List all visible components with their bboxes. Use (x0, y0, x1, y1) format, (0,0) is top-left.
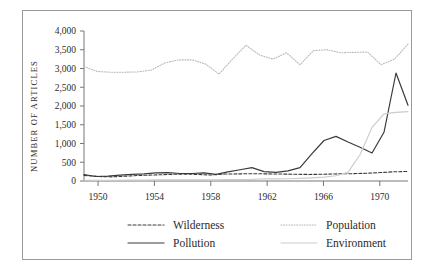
legend-label-population: Population (326, 219, 376, 232)
y-tick-label: 4,000 (55, 26, 77, 36)
line-chart: NUMBER OF ARTICLES 05001,0001,5002,0002,… (23, 11, 413, 261)
y-tick-label: 3,500 (55, 45, 77, 55)
series-line-environment (84, 112, 408, 181)
y-tick-label: 3,000 (55, 64, 77, 74)
x-tick-label: 1958 (201, 192, 220, 202)
y-tick-label: 2,500 (55, 83, 77, 93)
chart-figure-frame: NUMBER OF ARTICLES 05001,0001,5002,0002,… (22, 10, 412, 260)
legend-label-wilderness: Wilderness (173, 219, 225, 231)
x-tick-label: 1954 (145, 192, 164, 202)
y-tick-label: 1,000 (55, 139, 77, 149)
x-tick-label: 1950 (89, 192, 108, 202)
chart-legend: WildernessPopulationPollutionEnvironment (128, 219, 387, 249)
y-axis-ticks: 05001,0001,5002,0002,5003,0003,5004,000 (55, 26, 84, 186)
legend-label-pollution: Pollution (173, 237, 215, 249)
x-tick-label: 1966 (314, 192, 333, 202)
x-axis-ticks: 195019541958196219661970 (89, 181, 390, 202)
y-tick-label: 2,000 (55, 101, 77, 111)
series-lines (84, 44, 408, 180)
y-axis-title-label: NUMBER OF ARTICLES (29, 60, 39, 172)
x-tick-label: 1970 (370, 192, 389, 202)
y-tick-label: 0 (71, 176, 76, 186)
x-tick-label: 1962 (258, 192, 277, 202)
series-line-pollution (84, 73, 408, 177)
y-tick-label: 500 (62, 158, 77, 168)
series-line-population (84, 44, 408, 74)
y-tick-label: 1,500 (55, 120, 77, 130)
y-axis-title: NUMBER OF ARTICLES (29, 60, 39, 172)
legend-label-environment: Environment (326, 237, 387, 249)
